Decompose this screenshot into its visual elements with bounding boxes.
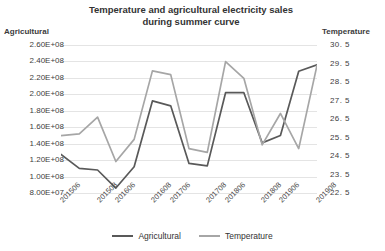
legend-swatch-temperature bbox=[199, 235, 220, 238]
chart-title: Temperature and agricultural electricity… bbox=[62, 4, 320, 27]
plot-area bbox=[61, 45, 317, 193]
chart-legend: Agricultural Temperature bbox=[0, 231, 385, 241]
series-line-temperature bbox=[61, 62, 317, 162]
left-tick-label: 2.20E+08 bbox=[30, 73, 64, 82]
left-tick-label: 1.60E+08 bbox=[30, 122, 64, 131]
legend-item-temperature: Temperature bbox=[199, 231, 273, 241]
right-tick-label: 26. 5 bbox=[330, 114, 350, 123]
left-tick-label: 2.40E+08 bbox=[30, 56, 64, 65]
right-tick-label: 23. 5 bbox=[330, 170, 350, 179]
left-axis-title: Agricultural bbox=[4, 27, 49, 36]
left-tick-label: 1.20E+08 bbox=[30, 155, 64, 164]
left-tick-label: 1.00E+08 bbox=[30, 172, 64, 181]
legend-label-temperature: Temperature bbox=[225, 231, 273, 241]
legend-label-agricultural: Agricultural bbox=[138, 231, 181, 241]
left-tick-label: 1.80E+08 bbox=[30, 106, 64, 115]
legend-item-agricultural: Agricultural bbox=[112, 231, 181, 241]
series-line-agricultural bbox=[61, 65, 317, 188]
left-tick-label: 2.60E+08 bbox=[30, 40, 64, 49]
right-axis-title: Temperature bbox=[322, 27, 370, 36]
right-tick-label: 30. 5 bbox=[330, 40, 350, 49]
left-tick-label: 1.40E+08 bbox=[30, 139, 64, 148]
right-tick-label: 27. 5 bbox=[330, 96, 350, 105]
series-lines bbox=[61, 45, 317, 193]
right-tick-label: 28. 5 bbox=[330, 77, 350, 86]
chart-container: Temperature and agricultural electricity… bbox=[0, 0, 385, 251]
right-tick-label: 29. 5 bbox=[330, 59, 350, 68]
right-tick-label: 25. 5 bbox=[330, 133, 350, 142]
left-tick-label: 2.00E+08 bbox=[30, 89, 64, 98]
legend-swatch-agricultural bbox=[112, 235, 133, 238]
right-tick-label: 24. 5 bbox=[330, 151, 350, 160]
